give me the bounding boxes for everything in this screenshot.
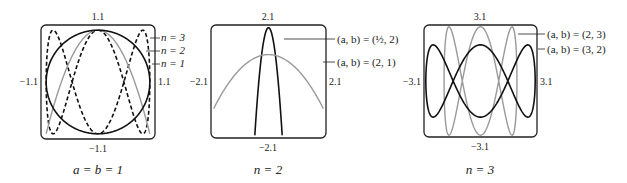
panel-3-curves xyxy=(426,27,535,135)
legend-2-3: (a, b) = (2, 3) xyxy=(547,28,606,41)
tick-top: 2.1 xyxy=(262,11,275,22)
curve--a-b-2-3- xyxy=(444,27,517,135)
tick-left: −1.1 xyxy=(20,76,38,87)
legend-n1: n = 1 xyxy=(161,57,185,69)
tick-right: 1.1 xyxy=(158,76,171,87)
legend-half-2: (a, b) = (½, 2) xyxy=(337,33,399,46)
tick-left: −2.1 xyxy=(190,76,208,87)
curve--a-b-2-1- xyxy=(214,55,324,109)
panel-2-curves xyxy=(214,28,324,136)
curve--a-b-1-2-2- xyxy=(255,28,282,136)
caption-2: n = 2 xyxy=(254,162,283,177)
curve--a-b-3-2- xyxy=(426,45,535,117)
plot-frame xyxy=(41,25,155,139)
tick-top: 1.1 xyxy=(92,11,105,22)
panel-3: 3.1 −3.1 −3.1 3.1 (a, b) = (2, 3) (a, b)… xyxy=(403,11,606,177)
plot-frame xyxy=(424,25,537,137)
legend-n2: n = 2 xyxy=(161,44,185,56)
tick-right: 2.1 xyxy=(329,76,342,87)
tick-top: 3.1 xyxy=(474,11,487,22)
figure: 1.1 −1.1 −1.1 1.1 n = 3 n = 2 n = 1 a = … xyxy=(0,0,627,183)
caption-1: a = b = 1 xyxy=(73,162,123,177)
tick-right: 3.1 xyxy=(540,76,553,87)
legend-2-1: (a, b) = (2, 1) xyxy=(337,56,396,69)
legend-n3: n = 3 xyxy=(161,31,185,43)
plot-frame xyxy=(211,25,326,138)
tick-bottom: −2.1 xyxy=(259,142,277,153)
tick-bottom: −3.1 xyxy=(471,141,489,152)
tick-bottom: −1.1 xyxy=(89,143,107,154)
panel-1: 1.1 −1.1 −1.1 1.1 n = 3 n = 2 n = 1 a = … xyxy=(20,11,186,177)
legend-3-2: (a, b) = (3, 2) xyxy=(547,43,606,56)
panel-1-curves xyxy=(46,30,150,134)
panel-2: 2.1 −2.1 −2.1 2.1 (a, b) = (½, 2) (a, b)… xyxy=(190,11,399,177)
caption-3: n = 3 xyxy=(466,162,495,177)
figure-svg: 1.1 −1.1 −1.1 1.1 n = 3 n = 2 n = 1 a = … xyxy=(0,0,627,183)
tick-left: −3.1 xyxy=(403,76,421,87)
